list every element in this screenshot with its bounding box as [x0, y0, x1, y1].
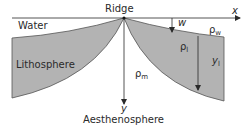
lithosphere-label: Lithosphere [16, 60, 75, 70]
water-label: Water [18, 21, 48, 31]
rho-l-subscript: l [186, 46, 188, 54]
yl-subscript: l [218, 60, 220, 68]
rho-m-subscript: m [141, 73, 148, 81]
x-axis-label: x [232, 6, 238, 16]
rho-l-label: ρl [180, 42, 188, 54]
y-axis-label: y [121, 104, 127, 114]
w-label: w [178, 18, 186, 28]
ridge-label: Ridge [105, 4, 134, 14]
rho-w-label: ρw [209, 25, 221, 37]
rho-m-label: ρm [135, 69, 148, 81]
rho-w-subscript: w [215, 29, 221, 37]
yl-label: yl [212, 56, 220, 68]
aesthenosphere-label: Aesthenosphere [83, 115, 164, 125]
